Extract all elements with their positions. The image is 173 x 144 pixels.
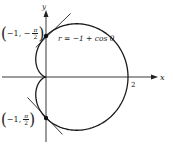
x-axis-arrow-icon [151, 75, 158, 80]
y-axis-label: y [41, 3, 47, 11]
top-point-marker [44, 34, 48, 38]
bottom-point-label: ( −1, π 2 ) [1, 112, 35, 127]
bottom-point-marker [44, 116, 48, 120]
bottom-point-label-den: 2 [24, 120, 28, 126]
top-point-label-prefix: −1, − [7, 30, 31, 38]
top-point-label: ( −1, − π 2 ) [1, 26, 44, 41]
y-axis-arrow-icon [44, 10, 49, 17]
equation-label: r = −1 + cos θ [58, 34, 115, 43]
x-axis-label: x [160, 73, 165, 82]
bottom-point-label-prefix: −1, [7, 116, 21, 124]
top-point-label-den: 2 [34, 34, 38, 40]
x-tick-label: 2 [131, 81, 135, 89]
